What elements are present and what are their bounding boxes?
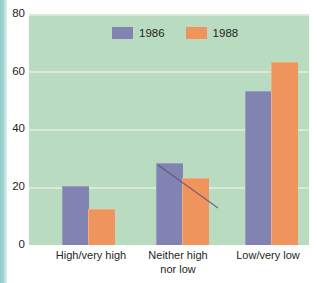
x-tick-label-neither-high-nor-low: Neither high nor low	[132, 249, 224, 277]
legend: 1986 1988	[112, 27, 238, 39]
plot-area	[29, 14, 309, 245]
legend-item-1988: 1988	[186, 27, 239, 39]
bar-group-low-very-low	[245, 14, 297, 245]
y-tick-label-40: 40	[1, 123, 25, 135]
bar-group-high-very-high	[62, 14, 114, 245]
legend-swatch-1986-icon	[112, 27, 133, 39]
y-tick-label-80: 80	[1, 8, 25, 20]
legend-label-1986: 1986	[139, 27, 165, 39]
y-tick-label-0: 0	[1, 239, 25, 251]
x-tick-label-high-very-high: High/very high	[36, 249, 146, 263]
bar-1986-neither-high-nor-low	[156, 163, 183, 245]
bar-1988-low-very-low	[271, 62, 298, 245]
legend-item-1986: 1986	[112, 27, 165, 39]
x-tick-label-low-very-low: Low/very low	[222, 249, 314, 263]
bar-1986-low-very-low	[245, 91, 272, 245]
y-tick-label-20: 20	[1, 181, 25, 193]
y-tick-label-60: 60	[1, 66, 25, 78]
bar-1988-high-very-high	[88, 209, 115, 245]
bar-1986-high-very-high	[62, 186, 89, 245]
bar-group-neither-high-nor-low	[156, 14, 208, 245]
bar-chart-figure: 80 60 40 20 0 High/very high Neither hig…	[0, 0, 317, 283]
legend-label-1988: 1988	[213, 27, 239, 39]
legend-swatch-1988-icon	[186, 27, 207, 39]
bar-1988-neither-high-nor-low	[182, 178, 209, 245]
